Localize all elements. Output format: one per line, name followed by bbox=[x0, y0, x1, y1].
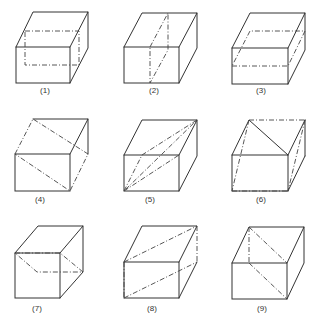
cube-9-label: (9) bbox=[257, 304, 267, 313]
cube-6-label: (6) bbox=[256, 195, 266, 204]
cube-1: (1) bbox=[16, 12, 88, 95]
cube-3-label: (3) bbox=[256, 86, 266, 95]
cube-8-label: (8) bbox=[147, 304, 157, 313]
cube-2-label: (2) bbox=[149, 86, 159, 95]
cube-8: (8) bbox=[124, 226, 197, 313]
cube-9: (9) bbox=[232, 227, 304, 313]
cube-7: (7) bbox=[15, 226, 83, 313]
cube-5: (5) bbox=[124, 120, 197, 204]
cube-3: (3) bbox=[232, 13, 305, 95]
cube-sections-diagram: (1) (2) (3) (4) (5) bbox=[0, 0, 316, 324]
cube-4: (4) bbox=[15, 119, 88, 204]
cube-1-label: (1) bbox=[40, 86, 50, 95]
cube-4-label: (4) bbox=[35, 195, 45, 204]
cube-7-label: (7) bbox=[32, 304, 42, 313]
cube-6: (6) bbox=[232, 120, 305, 204]
cube-5-label: (5) bbox=[145, 195, 155, 204]
cube-2: (2) bbox=[124, 13, 197, 95]
